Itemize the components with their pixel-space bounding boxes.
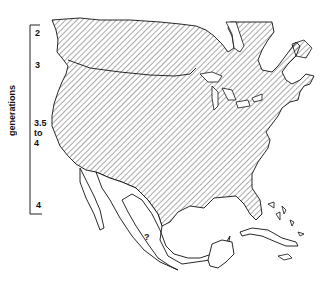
cuba [240,228,298,246]
north-america-map: ? [0,0,331,283]
legend-bracket [30,25,42,214]
bahamas [268,202,304,236]
hispaniola [278,254,292,260]
yucatan [208,240,234,268]
unknown-marker: ? [144,232,150,242]
